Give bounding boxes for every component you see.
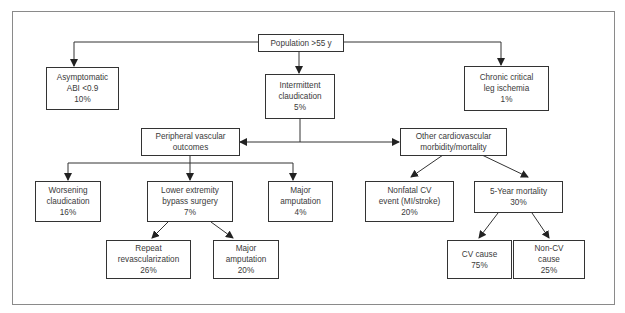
node-text: Lower extremity bbox=[161, 185, 219, 196]
edge-peripheral-worsening bbox=[68, 155, 190, 180]
node-text: revascularization bbox=[118, 254, 179, 265]
edge-peripheral-majoramp1 bbox=[190, 163, 293, 180]
edge-fiveyear-noncv bbox=[532, 213, 549, 238]
node-lower-extremity-bypass: Lower extremity bypass surgery 7% bbox=[147, 181, 233, 222]
edge-population-asymptomatic bbox=[74, 42, 258, 66]
node-text: Non-CV bbox=[534, 243, 563, 254]
node-text: 25% bbox=[541, 265, 557, 276]
node-text: 30% bbox=[510, 197, 526, 208]
node-chronic-critical: Chronic critical leg ischemia 1% bbox=[464, 66, 549, 111]
node-text: amputation bbox=[280, 196, 321, 207]
node-text: Population >55 y bbox=[270, 38, 331, 49]
node-major-amputation-1: Major amputation 4% bbox=[268, 181, 333, 222]
node-text: 20% bbox=[401, 207, 417, 218]
node-text: 7% bbox=[184, 207, 196, 218]
node-text: outcomes bbox=[173, 142, 209, 153]
edge-othercv-nonfatal bbox=[411, 155, 443, 177]
node-text: ABI <0.9 bbox=[67, 83, 99, 94]
node-text: morbidity/mortality bbox=[420, 142, 486, 153]
node-text: 1% bbox=[501, 94, 513, 105]
node-nonfatal-cv-event: Nonfatal CV event (MI/stroke) 20% bbox=[365, 181, 454, 222]
node-asymptomatic: Asymptomatic ABI <0.9 10% bbox=[46, 67, 119, 110]
node-text: Intermittent bbox=[280, 80, 321, 91]
node-worsening-claudication: Worsening claudication 16% bbox=[35, 181, 101, 222]
node-cv-cause: CV cause 75% bbox=[447, 240, 512, 279]
node-text: 10% bbox=[74, 94, 90, 105]
node-text: leg ischemia bbox=[484, 83, 530, 94]
node-five-year-mortality: 5-Year mortality 30% bbox=[474, 181, 563, 213]
node-repeat-revascularization: Repeat revascularization 26% bbox=[106, 240, 191, 279]
node-text: claudication bbox=[46, 196, 89, 207]
edge-othercv-fiveyear bbox=[482, 155, 528, 177]
edge-population-chronic bbox=[343, 42, 501, 65]
node-text: 26% bbox=[140, 265, 156, 276]
node-text: bypass surgery bbox=[162, 196, 218, 207]
node-text: 20% bbox=[238, 265, 254, 276]
node-text: 75% bbox=[471, 260, 487, 271]
node-other-cardiovascular: Other cardiovascular morbidity/mortality bbox=[400, 128, 507, 156]
edge-lowerext-repeat bbox=[152, 222, 168, 238]
node-text: Worsening bbox=[49, 185, 88, 196]
node-text: cause bbox=[538, 254, 560, 265]
node-text: event (MI/stroke) bbox=[379, 196, 440, 207]
node-text: 5% bbox=[294, 102, 306, 113]
edge-fiveyear-cvcause bbox=[479, 213, 498, 238]
node-text: Major bbox=[290, 185, 310, 196]
edge-lowerext-majoramp2 bbox=[211, 222, 233, 238]
node-text: 4% bbox=[295, 207, 307, 218]
node-text: Repeat bbox=[135, 243, 161, 254]
node-text: Chronic critical bbox=[480, 72, 534, 83]
node-major-amputation-2: Major amputation 20% bbox=[213, 240, 279, 279]
node-intermittent-claudication: Intermittent claudication 5% bbox=[265, 74, 335, 119]
node-peripheral-vascular: Peripheral vascular outcomes bbox=[141, 128, 240, 156]
node-non-cv-cause: Non-CV cause 25% bbox=[513, 240, 585, 279]
node-text: Other cardiovascular bbox=[416, 131, 492, 142]
node-text: 5-Year mortality bbox=[490, 186, 547, 197]
node-text: amputation bbox=[226, 254, 267, 265]
node-text: claudication bbox=[278, 91, 321, 102]
node-text: Nonfatal CV bbox=[387, 185, 431, 196]
node-text: CV cause bbox=[462, 249, 498, 260]
node-text: Peripheral vascular bbox=[155, 131, 225, 142]
node-population: Population >55 y bbox=[258, 34, 344, 52]
node-text: Asymptomatic bbox=[57, 72, 108, 83]
node-text: Major bbox=[236, 243, 256, 254]
node-text: 16% bbox=[60, 207, 76, 218]
